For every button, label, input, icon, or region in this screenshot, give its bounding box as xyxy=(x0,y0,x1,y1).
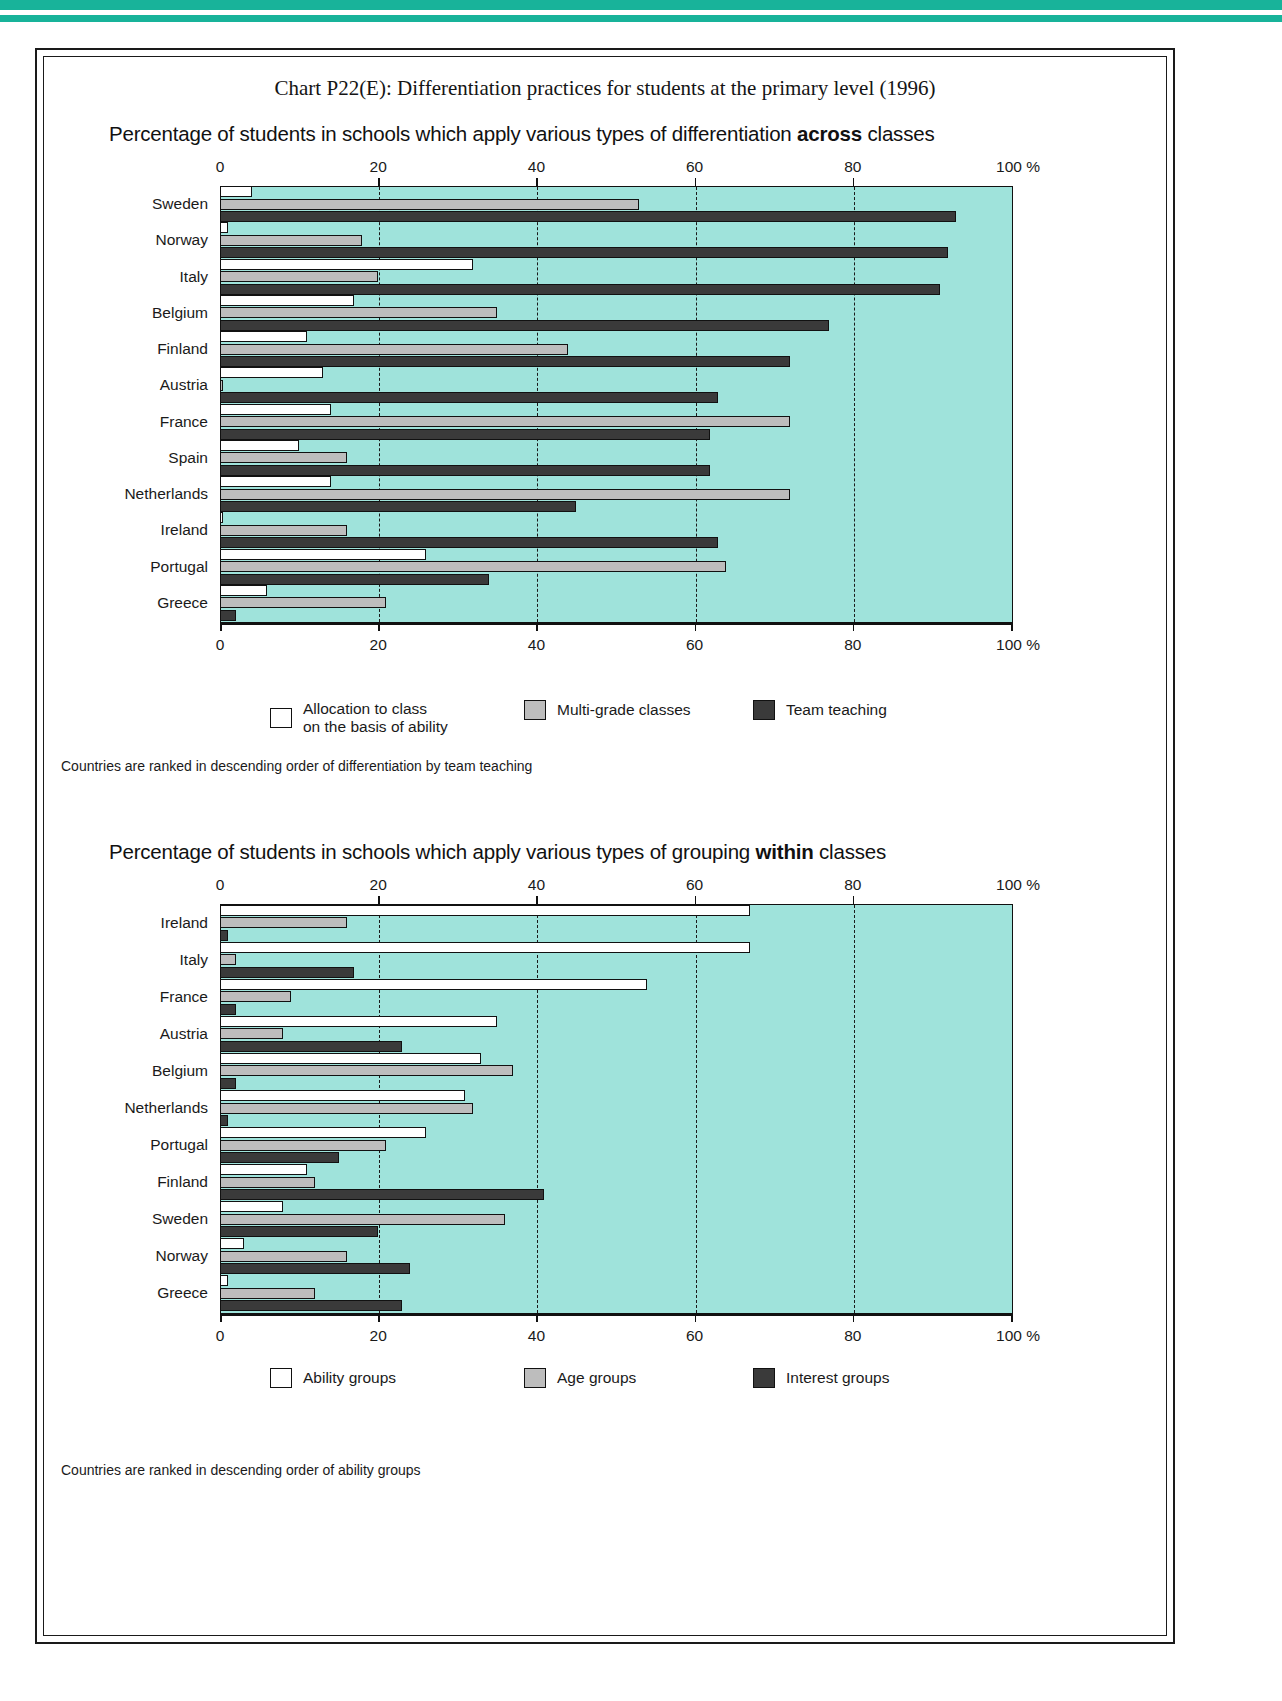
bar-2 xyxy=(220,1078,236,1089)
bar-0 xyxy=(220,549,426,560)
grid-line xyxy=(696,905,697,1313)
bar-2 xyxy=(220,356,790,367)
axis-tick-mark xyxy=(853,896,855,904)
legend-label-2: Interest groups xyxy=(786,1369,889,1387)
bar-1 xyxy=(220,954,236,965)
category-label: Sweden xyxy=(37,195,220,213)
bar-1 xyxy=(220,1103,473,1114)
bar-2 xyxy=(220,1152,339,1163)
bar-1 xyxy=(220,917,347,928)
category-label: Austria xyxy=(37,376,220,394)
bar-0 xyxy=(220,404,331,415)
axis-tick-mark xyxy=(378,896,380,904)
axis-tick-label: 80 xyxy=(844,1327,861,1345)
bar-1 xyxy=(220,199,639,210)
bar-1 xyxy=(220,561,726,572)
bar-1 xyxy=(220,1177,315,1188)
bar-2 xyxy=(220,247,948,258)
bar-2 xyxy=(220,1263,410,1274)
bar-0 xyxy=(220,905,750,916)
bar-2 xyxy=(220,501,576,512)
axis-tick-label: 40 xyxy=(528,636,545,654)
category-label: Spain xyxy=(37,449,220,467)
axis-line-bottom xyxy=(220,1314,1011,1316)
axis-tick-mark xyxy=(220,1314,222,1322)
footnote-within: Countries are ranked in descending order… xyxy=(61,1462,421,1478)
grid-line xyxy=(854,905,855,1313)
axis-tick-mark xyxy=(220,623,222,631)
panel-within-subtitle-post: classes xyxy=(814,840,886,863)
category-label: Greece xyxy=(37,1284,220,1302)
bar-1 xyxy=(220,1028,283,1039)
category-label: Italy xyxy=(37,268,220,286)
axis-tick-mark xyxy=(378,178,380,186)
bar-0 xyxy=(220,1127,426,1138)
bar-0 xyxy=(220,1275,228,1286)
axis-tick-mark xyxy=(536,178,538,186)
axis-tick-mark xyxy=(853,178,855,186)
bar-1 xyxy=(220,307,497,318)
axis-tick-mark xyxy=(378,623,380,631)
bar-2 xyxy=(220,211,956,222)
bar-0 xyxy=(220,942,750,953)
category-label: Finland xyxy=(37,340,220,358)
category-label: Portugal xyxy=(37,1136,220,1154)
axis-tick-mark xyxy=(695,896,697,904)
legend-label-1: Multi-grade classes xyxy=(557,701,691,719)
bar-2 xyxy=(220,284,940,295)
legend-swatch-1 xyxy=(524,700,546,720)
bar-0 xyxy=(220,1053,481,1064)
category-label: Netherlands xyxy=(37,1099,220,1117)
legend-item-2: Interest groups xyxy=(753,1368,889,1388)
axis-tick-label: 0 xyxy=(216,636,225,654)
bar-0 xyxy=(220,476,331,487)
bar-2 xyxy=(220,1041,402,1052)
axis-tick-mark xyxy=(1011,1314,1013,1322)
panel-within-subtitle-pre: Percentage of students in schools which … xyxy=(109,840,756,863)
axis-top-across: 020406080100 % xyxy=(37,154,1165,184)
axis-tick-label: 0 xyxy=(216,158,225,176)
bar-0 xyxy=(220,979,647,990)
axis-tick-label: 20 xyxy=(370,158,387,176)
chart-frame-outer: Chart P22(E): Differentiation practices … xyxy=(35,48,1175,1644)
category-label: Belgium xyxy=(37,1062,220,1080)
bar-0 xyxy=(220,259,473,270)
bar-2 xyxy=(220,465,710,476)
bar-0 xyxy=(220,1016,497,1027)
category-label: France xyxy=(37,413,220,431)
axis-tick-mark xyxy=(536,1314,538,1322)
bar-1 xyxy=(220,1251,347,1262)
page-title: Chart P22(E): Differentiation practices … xyxy=(37,76,1173,101)
legend-item-0: Ability groups xyxy=(270,1368,396,1388)
bar-1 xyxy=(220,416,790,427)
bar-2 xyxy=(220,320,829,331)
bar-0 xyxy=(220,440,299,451)
bar-1 xyxy=(220,525,347,536)
legend-label-0: Ability groups xyxy=(303,1369,396,1387)
category-label: Italy xyxy=(37,951,220,969)
axis-tick-label: 40 xyxy=(528,876,545,894)
category-label: Finland xyxy=(37,1173,220,1191)
legend-item-1: Multi-grade classes xyxy=(524,700,691,720)
bar-2 xyxy=(220,1226,378,1237)
axis-tick-label: 40 xyxy=(528,158,545,176)
axis-tick-label: 40 xyxy=(528,1327,545,1345)
panel-across-subtitle-post: classes xyxy=(862,122,934,145)
bar-1 xyxy=(220,452,347,463)
chart-across-classes: 020406080100 % 020406080100 % SwedenNorw… xyxy=(37,154,1165,679)
bar-1 xyxy=(220,1214,505,1225)
bar-0 xyxy=(220,512,223,523)
category-label: Netherlands xyxy=(37,485,220,503)
axis-tick-mark xyxy=(695,1314,697,1322)
top-accent-band xyxy=(0,0,1282,22)
legend-within: Ability groupsAge groupsInterest groups xyxy=(37,1368,1173,1402)
page-canvas: Chart P22(E): Differentiation practices … xyxy=(0,0,1282,1701)
axis-tick-label: 80 xyxy=(844,876,861,894)
axis-tick-label: 100 % xyxy=(996,876,1040,894)
bar-1 xyxy=(220,1065,513,1076)
category-label: Sweden xyxy=(37,1210,220,1228)
bar-0 xyxy=(220,585,267,596)
bar-1 xyxy=(220,489,790,500)
bar-1 xyxy=(220,235,362,246)
legend-label-2: Team teaching xyxy=(786,701,887,719)
